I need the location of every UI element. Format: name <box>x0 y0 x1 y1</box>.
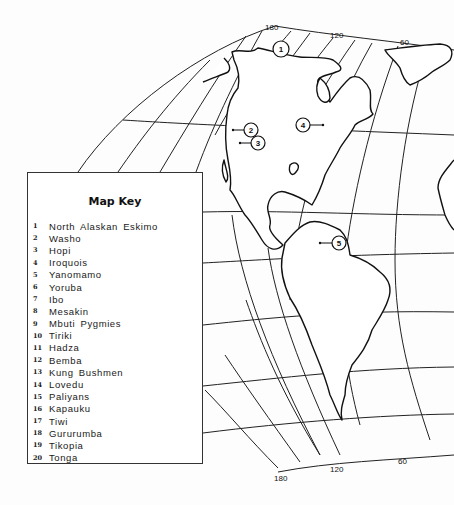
key-item-number: 12 <box>33 356 49 364</box>
key-item-name: Bemba <box>49 355 82 366</box>
key-item-name: Gururumba <box>49 428 102 439</box>
lon-label-bottom-120: 120 <box>330 465 344 474</box>
key-item-name: Paliyans <box>49 391 90 402</box>
key-item-number: 14 <box>33 381 49 389</box>
key-item-number: 9 <box>33 320 49 328</box>
key-item: 14Lovedu <box>33 378 158 390</box>
bottom-boundary <box>278 455 454 472</box>
marker-1-label: 1 <box>279 45 284 54</box>
marker-3-label: 3 <box>256 139 261 148</box>
key-item-name: Yanomamo <box>49 269 102 280</box>
key-item-number: 18 <box>33 429 49 437</box>
key-item: 3Hopi <box>33 244 158 256</box>
marker-2-label: 2 <box>249 126 254 135</box>
lon-label-top-180: 180 <box>265 23 279 32</box>
key-item-name: Washo <box>49 233 81 244</box>
south-america-landmass <box>281 222 389 420</box>
key-item-number: 15 <box>33 393 49 401</box>
marker-5-label: 5 <box>337 239 342 248</box>
key-item-number: 11 <box>33 344 49 352</box>
key-item-name: Tikopia <box>49 440 83 451</box>
key-item-number: 8 <box>33 307 49 315</box>
greenland <box>385 44 452 85</box>
key-item-number: 17 <box>33 417 49 425</box>
key-item-name: Hopi <box>49 245 71 256</box>
lon-label-bottom-180: 180 <box>274 474 288 483</box>
key-item-number: 7 <box>33 295 49 303</box>
key-item-name: Tonga <box>49 452 78 463</box>
lon-label-top-60: 60 <box>400 38 409 47</box>
africa-coast <box>438 160 454 230</box>
lon-label-top-120: 120 <box>330 31 344 40</box>
marker-4-label: 4 <box>301 121 306 130</box>
key-item-name: Kapauku <box>49 403 91 414</box>
key-item-number: 10 <box>33 332 49 340</box>
lon-label-bottom-60: 60 <box>398 457 407 466</box>
key-item: 1North Alaskan Eskimo <box>33 220 158 232</box>
key-item: 5Yanomamo <box>33 269 158 281</box>
key-item-number: 13 <box>33 368 49 376</box>
key-item-number: 4 <box>33 259 49 267</box>
key-item-number: 5 <box>33 271 49 279</box>
key-item: 18Gururumba <box>33 427 158 439</box>
key-item: 19Tikopia <box>33 439 158 451</box>
map-key-list: 1North Alaskan Eskimo 2Washo 3Hopi 4Iroq… <box>33 220 158 464</box>
key-item-name: Lovedu <box>49 379 84 390</box>
key-item: 7Ibo <box>33 293 158 305</box>
key-item: 11Hadza <box>33 342 158 354</box>
baja-california <box>222 160 227 182</box>
key-item: 12Bemba <box>33 354 158 366</box>
key-item: 13Kung Bushmen <box>33 366 158 378</box>
key-item: 17Tiwi <box>33 415 158 427</box>
key-item-name: North Alaskan Eskimo <box>49 221 158 232</box>
key-item-number: 1 <box>33 222 49 230</box>
key-item-number: 6 <box>33 283 49 291</box>
key-item-name: Ibo <box>49 294 64 305</box>
key-item-number: 20 <box>33 454 49 462</box>
key-item-name: Mesakin <box>49 306 89 317</box>
key-item: 2Washo <box>33 232 158 244</box>
key-item-number: 19 <box>33 441 49 449</box>
map-key: Map Key 1North Alaskan Eskimo 2Washo 3Ho… <box>27 172 203 464</box>
key-item-number: 16 <box>33 405 49 413</box>
key-item-name: Iroquois <box>49 257 88 268</box>
alaska-peninsula <box>203 58 230 82</box>
key-item: 6Yoruba <box>33 281 158 293</box>
key-item: 10Tiriki <box>33 330 158 342</box>
key-item: 4Iroquois <box>33 257 158 269</box>
key-item-number: 2 <box>33 234 49 242</box>
key-item: 15Paliyans <box>33 391 158 403</box>
key-item-name: Tiwi <box>49 416 68 427</box>
key-item: 16Kapauku <box>33 403 158 415</box>
key-item: 8Mesakin <box>33 305 158 317</box>
key-item: 20Tonga <box>33 452 158 464</box>
key-item: 9Mbuti Pygmies <box>33 318 158 330</box>
key-item-name: Tiriki <box>49 330 72 341</box>
key-item-name: Mbuti Pygmies <box>49 318 121 329</box>
key-item-name: Hadza <box>49 342 79 353</box>
key-item-name: Yoruba <box>49 282 82 293</box>
key-item-name: Kung Bushmen <box>49 367 123 378</box>
map-key-title: Map Key <box>28 195 202 208</box>
marker-1[interactable]: 1 <box>273 41 289 57</box>
key-item-number: 3 <box>33 246 49 254</box>
